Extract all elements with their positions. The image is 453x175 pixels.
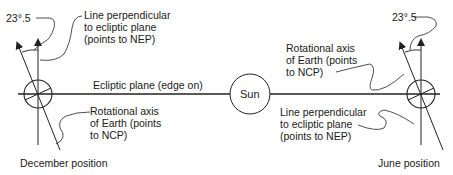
ecliptic-plane-label: Ecliptic plane (edge on) (93, 79, 203, 91)
june-angle-arc (405, 50, 421, 52)
june-axis-leader (336, 64, 404, 90)
june-perpendicular-label-line3: (points to NEP) (280, 130, 351, 142)
december-perpendicular-label-line2: to ecliptic plane (84, 21, 156, 33)
june-position-label: June position (378, 157, 440, 169)
june-axis-label-line1: Rotational axis (286, 42, 355, 54)
december-perpendicular-label-line3: (points to NEP) (84, 33, 155, 45)
december-axis-leader (56, 112, 90, 144)
sun-label: Sun (240, 88, 260, 100)
ecliptic-diagram: 23°.5 Line perpendicular to ecliptic pla… (0, 0, 453, 175)
june-perpendicular-label-line1: Line perpendicular (280, 106, 366, 118)
december-angle-arc (22, 50, 38, 52)
december-perpendicular-label-line1: Line perpendicular (84, 9, 170, 21)
december-angle-label: 23°.5 (6, 12, 31, 24)
june-axis-label-line3: to NCP) (286, 66, 323, 78)
june-earth (336, 17, 443, 150)
june-angle-label: 23°.5 (392, 11, 417, 23)
december-earth (18, 16, 90, 150)
diagram-graphics (0, 0, 453, 175)
december-axis-label-line1: Rotational axis (90, 105, 159, 117)
june-perpendicular-label-line2: to ecliptic plane (280, 118, 352, 130)
december-perpendicular-leader (40, 16, 82, 60)
december-axis-label-line2: of Earth (points (90, 117, 161, 129)
december-angle-leader (34, 18, 55, 50)
december-position-label: December position (20, 157, 108, 169)
december-axis-label-line3: to NCP) (90, 129, 127, 141)
june-axis-label-line2: of Earth (points (286, 54, 357, 66)
